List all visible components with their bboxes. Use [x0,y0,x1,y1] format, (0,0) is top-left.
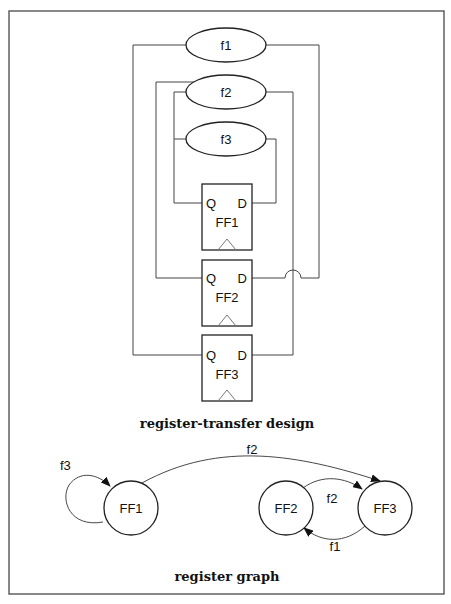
flipflop-ff2: Q D FF2 [202,260,252,326]
function-label: f1 [221,38,232,53]
d-pin-label: D [238,348,247,363]
node-ff2: FF2 [259,481,313,535]
node-label: FF1 [119,501,142,516]
node-label: FF2 [274,501,297,516]
node-label: FF3 [373,501,396,516]
q-pin-label: Q [206,271,216,286]
function-f2: f2 [186,75,266,109]
function-label: f3 [221,132,232,147]
node-ff3: FF3 [358,481,412,535]
edge-label: f2 [327,491,338,506]
edge-label: f1 [330,539,341,554]
edge-label: f3 [60,458,71,473]
node-ff1: FF1 [104,481,158,535]
rtl-caption: register-transfer design [140,416,315,431]
figure-canvas: f1 f2 f3 Q D FF1 Q D FF2 Q D [0,0,451,604]
edge-label: f2 [247,442,258,457]
q-pin-label: Q [206,196,216,211]
graph-caption: register graph [174,569,280,584]
d-pin-label: D [238,196,247,211]
function-f3: f3 [186,122,266,156]
flipflop-label: FF1 [215,215,238,230]
q-pin-label: Q [206,348,216,363]
function-f1: f1 [186,28,266,62]
d-pin-label: D [238,271,247,286]
flipflop-label: FF2 [215,290,238,305]
function-label: f2 [221,85,232,100]
flipflop-ff3: Q D FF3 [202,335,252,401]
flipflop-ff1: Q D FF1 [202,184,252,250]
flipflop-label: FF3 [215,367,238,382]
